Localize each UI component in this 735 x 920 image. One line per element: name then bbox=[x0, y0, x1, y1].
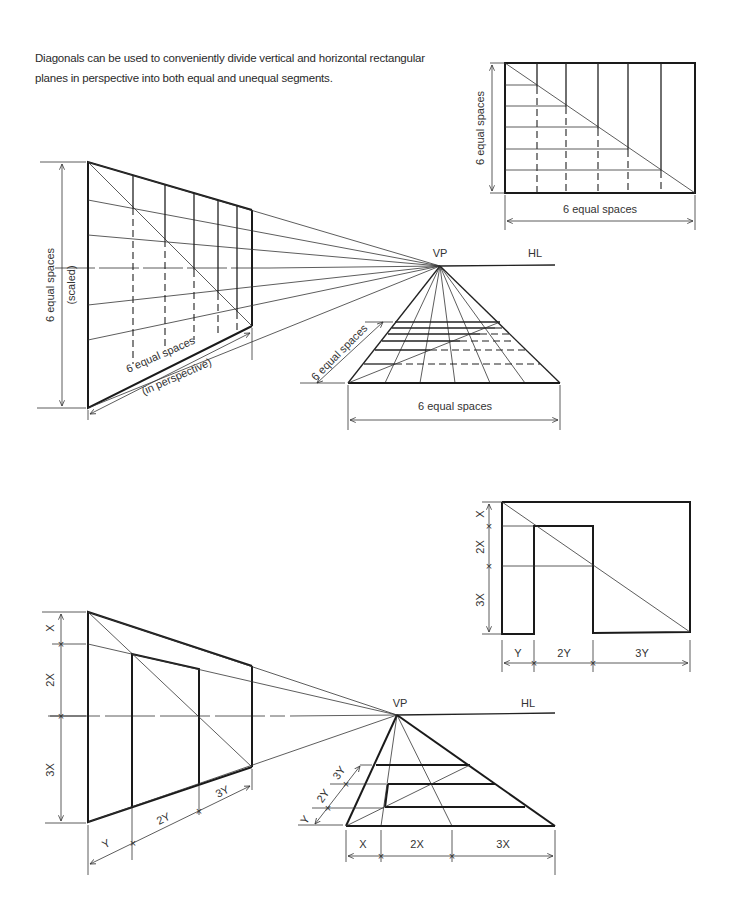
equal-vertical-perspective-figure: 6 equal spaces (scaled) 6 equal spaces (… bbox=[37, 162, 440, 420]
svg-text:×: × bbox=[325, 802, 331, 814]
unequal-horizontal-perspective-figure: × × Y 2Y 3Y × × X 2X 3X bbox=[298, 715, 555, 875]
svg-text:×: × bbox=[58, 710, 64, 722]
perspective-diagram: 6 equal spaces 6 equal spaces VP HL bbox=[0, 0, 735, 920]
hl-label-bottom: HL bbox=[521, 697, 535, 709]
label-y-floor: Y bbox=[298, 813, 312, 826]
label-3x-elev: 3X bbox=[474, 593, 486, 607]
svg-text:×: × bbox=[343, 778, 349, 790]
svg-text:×: × bbox=[58, 638, 64, 650]
label-6-equal-spaces-scaled: 6 equal spaces bbox=[44, 248, 56, 322]
label-scaled: (scaled) bbox=[65, 265, 77, 304]
label-6-equal-spaces-depth: 6 equal spaces bbox=[309, 321, 370, 382]
equal-horizontal-perspective-figure: 6 equal spaces 6 equal spaces bbox=[300, 266, 560, 430]
label-2x-vert: 2X bbox=[44, 673, 56, 687]
label-x-floor: X bbox=[359, 838, 367, 850]
label-6-equal-spaces-horizontal: 6 equal spaces bbox=[563, 203, 637, 215]
label-y-vert: Y bbox=[100, 836, 113, 850]
label-2x-floor: 2X bbox=[410, 838, 424, 850]
svg-text:×: × bbox=[590, 657, 596, 669]
label-3x-floor: 3X bbox=[496, 838, 510, 850]
label-6-equal-spaces-width: 6 equal spaces bbox=[418, 400, 492, 412]
svg-text:×: × bbox=[531, 657, 537, 669]
unequal-vertical-perspective-figure: × × X 2X 3X × × Y 2Y 3Y bbox=[42, 612, 397, 875]
label-2y-vert: 2Y bbox=[154, 810, 172, 827]
label-3x-vert: 3X bbox=[44, 763, 56, 777]
svg-text:×: × bbox=[378, 850, 384, 862]
hl-label-top: HL bbox=[528, 247, 542, 259]
label-3y-vert: 3Y bbox=[213, 783, 231, 800]
unequal-elevation-figure: × × X 2X 3X × × Y 2Y 3Y bbox=[474, 502, 690, 672]
vp-label-top: VP bbox=[433, 247, 448, 259]
equal-elevation-figure: 6 equal spaces 6 equal spaces bbox=[474, 63, 695, 230]
svg-text:×: × bbox=[486, 520, 492, 532]
svg-text:×: × bbox=[196, 805, 202, 817]
label-y-elev: Y bbox=[514, 647, 522, 659]
vp-label-bottom: VP bbox=[393, 697, 408, 709]
label-2x-elev: 2X bbox=[474, 540, 486, 554]
label-x-elev: X bbox=[474, 510, 486, 518]
svg-text:×: × bbox=[486, 560, 492, 572]
label-2y-elev: 2Y bbox=[557, 647, 571, 659]
svg-text:×: × bbox=[130, 837, 136, 849]
horizon-line-bottom: VP HL bbox=[50, 697, 555, 716]
horizon-line-top: VP HL bbox=[55, 247, 555, 268]
label-6-equal-spaces-vertical: 6 equal spaces bbox=[474, 91, 486, 165]
svg-text:×: × bbox=[449, 850, 455, 862]
label-3y-elev: 3Y bbox=[635, 647, 649, 659]
label-x-vert: X bbox=[44, 624, 56, 632]
